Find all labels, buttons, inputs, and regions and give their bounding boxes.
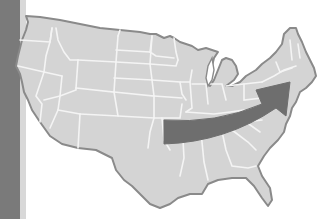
- us-map: [0, 0, 322, 219]
